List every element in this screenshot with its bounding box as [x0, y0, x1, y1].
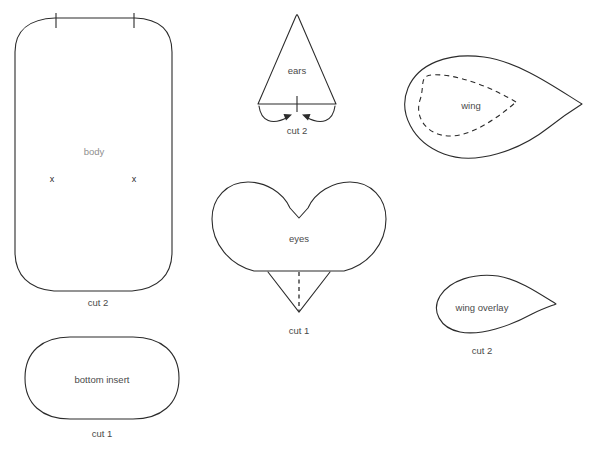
ears-outline	[258, 15, 336, 104]
piece-wing: wing	[405, 56, 582, 158]
pattern-sheet: body x x cut 2 ears cut 2 wing	[0, 0, 592, 449]
bottom-insert-cut-label: cut 1	[92, 428, 113, 439]
ears-arrow-left-head	[284, 114, 293, 121]
bottom-insert-label: bottom insert	[75, 374, 130, 385]
pattern-canvas: body x x cut 2 ears cut 2 wing	[0, 0, 592, 449]
wing-outline	[405, 56, 582, 158]
piece-wing-overlay: wing overlay cut 2	[437, 275, 556, 355]
wing-overlay-cut-label: cut 2	[472, 345, 493, 356]
ears-arrow-left-curve	[259, 106, 288, 121]
ears-label: ears	[288, 65, 307, 76]
piece-body: body x x cut 2	[15, 13, 172, 308]
ears-cut-label: cut 2	[287, 125, 308, 136]
ears-arrow-right-curve	[306, 106, 335, 121]
body-placement-mark-left: x	[50, 174, 55, 184]
ears-arrow-right-head	[302, 114, 311, 121]
piece-ears: ears cut 2	[258, 15, 336, 136]
piece-eyes: eyes cut 1	[212, 182, 386, 336]
wing-label: wing	[460, 100, 481, 111]
eyes-outline	[212, 182, 386, 271]
body-placement-mark-right: x	[132, 174, 137, 184]
wing-overlay-label: wing overlay	[455, 302, 509, 313]
body-cut-label: cut 2	[88, 297, 109, 308]
eyes-label: eyes	[289, 233, 309, 244]
body-label: body	[84, 146, 105, 157]
piece-bottom-insert: bottom insert cut 1	[25, 337, 179, 439]
eyes-cut-label: cut 1	[289, 325, 310, 336]
